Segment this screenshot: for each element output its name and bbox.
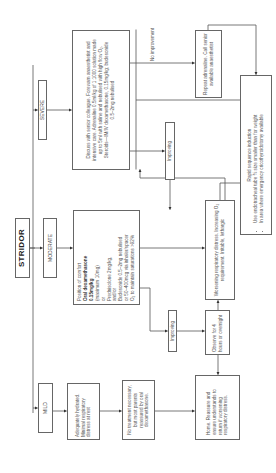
improving-lower-label: Improving (170, 321, 176, 341)
home-text: Home. Reassure and ensure understands to… (206, 380, 230, 435)
no-treatment-text: No treatment necessary, but most parents… (127, 383, 151, 437)
worsening-box: Worsening respiratory distress. Increasi… (205, 200, 235, 300)
mild-box: MILD (38, 383, 53, 433)
mild-assessment-text: Adequately hydrated. Minimal respiratory… (75, 386, 93, 437)
stridor-title: STRIDOR (17, 229, 27, 267)
mild-label: MILD (42, 402, 49, 414)
observe-box: Observe for 4 hours or overnight (205, 310, 230, 355)
worsening-text: Worsening respiratory distress. Increasi… (214, 203, 226, 297)
observe-text: Observe for 4 hours or overnight (212, 313, 224, 352)
flowchart-stage: STRIDOR SEVERE MODERATE MILD Discuss wit… (0, 0, 276, 473)
mild-assessment-box: Adequately hydrated. Minimal respiratory… (67, 383, 100, 440)
moderate-line-oxygen: O₂ to maintain saturations >92% (130, 214, 136, 301)
repeat-adrenaline-box: Repeat adrenaline. Call senior available… (195, 30, 222, 98)
rsi-bullet: In area where emergency cricothyroidotom… (259, 82, 265, 223)
improving-lower-box: Improving (168, 310, 177, 352)
no-improvement-label: No improvement (150, 28, 155, 61)
moderate-management-box: Position of comfort Oral dexamethasone 0… (73, 210, 140, 305)
severe-management-text: Discuss with senior colleague. Forewarn … (86, 39, 116, 161)
no-treatment-box: No treatment necessary, but most parents… (122, 380, 155, 440)
stridor-box: STRIDOR (15, 218, 30, 278)
home-box: Home. Reassure and ensure understands to… (195, 375, 240, 440)
rsi-box: Rapid sequence induction Use endotrachea… (240, 75, 272, 235)
severe-label: SEVERE (39, 100, 46, 120)
moderate-label: MODERATE (47, 234, 54, 262)
moderate-box: MODERATE (43, 218, 57, 278)
repeat-adrenaline-text: Repeat adrenaline. Call senior available… (203, 33, 215, 95)
improving-upper-box: Improving (165, 122, 175, 180)
severe-box: SEVERE (38, 80, 47, 140)
severe-management-box: Discuss with senior colleague. Forewarn … (72, 30, 130, 170)
rsi-bullet-list: Use endotracheal tube ½ size smaller tha… (253, 82, 265, 228)
improving-upper-label: Improving (167, 141, 173, 161)
